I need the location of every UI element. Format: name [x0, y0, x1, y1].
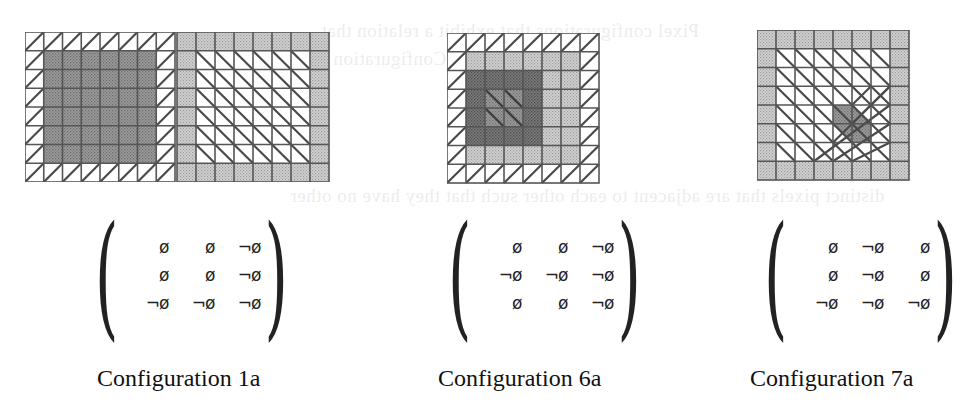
- pixel-grid-config-7a: [757, 30, 911, 182]
- figure-config-7a-grid: [757, 30, 911, 182]
- right-paren: ): [933, 208, 956, 343]
- matrix-cell: ¬ø: [475, 262, 521, 288]
- pixel-grid-config-1a: [25, 32, 330, 182]
- matrix-cell: ¬ø: [567, 234, 613, 260]
- grid-right: [177, 32, 329, 182]
- figure-config-6a-grid: [447, 33, 601, 185]
- left-paren: (: [95, 208, 118, 343]
- matrix-config-7a: ( ø ¬ø ø ø ¬ø ø ¬ø ¬ø ¬ø ): [764, 234, 957, 316]
- matrix-cell: ¬ø: [567, 290, 613, 316]
- matrix-cell: ø: [122, 234, 168, 260]
- matrix-cell: ¬ø: [837, 290, 883, 316]
- matrix-cell: ¬ø: [883, 290, 929, 316]
- matrix-config-1a: ( ø ø ¬ø ø ø ¬ø ¬ø ¬ø ¬ø ): [95, 234, 288, 316]
- matrix-cell: ¬ø: [521, 262, 567, 288]
- matrix-cell: ø: [791, 234, 837, 260]
- matrix-cell: ø: [475, 234, 521, 260]
- caption-config-6a: Configuration 6a: [438, 365, 601, 392]
- matrix-cell: ¬ø: [214, 290, 260, 316]
- matrix-cell: ¬ø: [214, 262, 260, 288]
- matrix-cell: ø: [883, 234, 929, 260]
- right-paren: ): [264, 208, 287, 343]
- matrix-cell: ø: [521, 234, 567, 260]
- figure-config-1a-grids: [25, 32, 330, 182]
- matrix-cell: ø: [168, 234, 214, 260]
- caption-config-7a: Configuration 7a: [750, 365, 913, 392]
- matrix-cell: ø: [791, 262, 837, 288]
- matrix-cell: ¬ø: [122, 290, 168, 316]
- matrix-cell: ¬ø: [214, 234, 260, 260]
- pixel-grid-config-6a: [447, 33, 601, 185]
- matrix-cell: ø: [475, 290, 521, 316]
- matrix-cell: ¬ø: [791, 290, 837, 316]
- matrix-cell: ¬ø: [837, 234, 883, 260]
- matrix-cell: ø: [883, 262, 929, 288]
- matrix-config-6a: ( ø ø ¬ø ¬ø ¬ø ¬ø ø ø ¬ø ): [448, 234, 641, 316]
- matrix-cell: ¬ø: [837, 262, 883, 288]
- matrix-cell: ø: [521, 290, 567, 316]
- caption-config-1a: Configuration 1a: [97, 365, 260, 392]
- right-paren: ): [617, 208, 640, 343]
- matrix-cell: ø: [168, 262, 214, 288]
- matrix-cell: ø: [122, 262, 168, 288]
- matrix-cell: ¬ø: [168, 290, 214, 316]
- bleed-through-text-3: distinct pixels that are adjacent to eac…: [290, 185, 885, 207]
- left-paren: (: [448, 208, 471, 343]
- matrix-cell: ¬ø: [567, 262, 613, 288]
- left-paren: (: [764, 208, 787, 343]
- grid-left: [25, 32, 175, 182]
